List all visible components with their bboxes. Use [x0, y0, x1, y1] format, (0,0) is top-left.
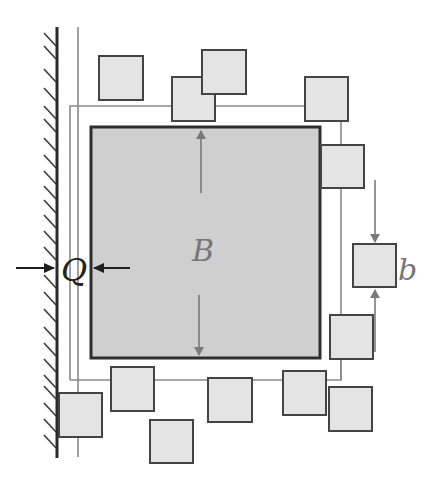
- particle-square: [330, 315, 373, 359]
- particle-square: [150, 420, 193, 463]
- particle-square: [111, 367, 154, 411]
- particle-square: [321, 145, 364, 188]
- particle-square-b: [353, 244, 396, 287]
- label-big-b: B: [191, 233, 214, 268]
- label-q: Q: [61, 251, 87, 289]
- particle-square: [283, 371, 326, 415]
- wall: [44, 27, 57, 458]
- particle-square: [329, 387, 372, 431]
- particle-square: [208, 378, 252, 422]
- label-small-b: b: [398, 252, 417, 287]
- particle-square: [99, 56, 143, 100]
- particle-square: [59, 393, 102, 437]
- wall-hatching: [44, 33, 56, 448]
- diagram-canvas: B Q b: [0, 0, 440, 489]
- particle-square: [305, 77, 348, 121]
- particle-square: [202, 50, 246, 94]
